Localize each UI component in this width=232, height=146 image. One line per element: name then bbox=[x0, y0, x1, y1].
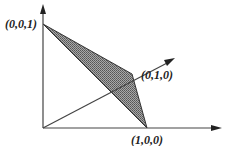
simplex-triangle bbox=[43, 24, 147, 128]
vertex-label-010: (0,1,0) bbox=[141, 69, 173, 81]
y-axis-arrow-icon bbox=[164, 58, 175, 66]
x-axis-arrow-icon bbox=[211, 125, 222, 131]
vertex-label-100: (1,0,0) bbox=[131, 134, 163, 146]
z-axis-arrow-icon bbox=[40, 4, 46, 14]
vertex-label-001: (0,0,1) bbox=[5, 18, 37, 30]
